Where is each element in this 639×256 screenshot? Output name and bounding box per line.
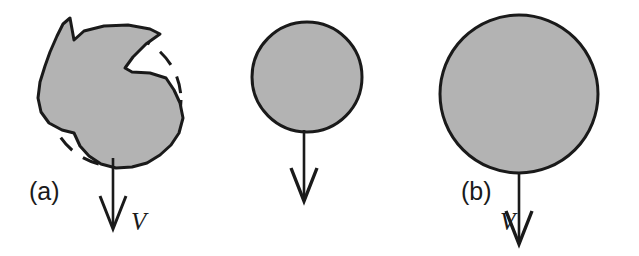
velocity-arrow-b <box>291 130 317 201</box>
panel-b: (b) V <box>213 0 426 256</box>
velocity-label-a: V <box>131 209 146 234</box>
irregular-particle-blob <box>38 18 183 168</box>
panel-b-graphic <box>213 0 426 256</box>
panel-c: (c) V <box>426 0 639 256</box>
panel-label-a: (a) <box>29 179 60 204</box>
sphere-medium <box>252 22 362 132</box>
velocity-arrow-c <box>506 172 532 244</box>
panel-a: (a) V <box>0 0 213 256</box>
panel-a-graphic <box>0 0 213 256</box>
panel-c-graphic <box>426 0 639 256</box>
sphere-large <box>440 15 598 173</box>
physics-diagram-figure: (a) V (b) V (c) V <box>0 0 639 256</box>
